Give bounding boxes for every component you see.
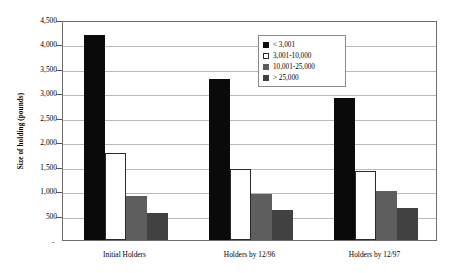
legend-item-label: 3,001-10,000 [273, 52, 311, 60]
bar [230, 169, 251, 240]
bars-layer [63, 22, 436, 240]
y-axis-tick-label: 3,500 [0, 65, 62, 73]
legend-swatch-icon [263, 64, 269, 70]
y-axis-tick-label: 2,500 [0, 114, 62, 122]
bar [126, 196, 147, 240]
bar [355, 171, 376, 240]
legend-item[interactable]: 10,001-25,000 [263, 61, 341, 72]
y-axis-tick-label: 2,000 [0, 139, 62, 147]
legend-item[interactable]: 3,001-10,000 [263, 50, 341, 61]
bar [272, 210, 293, 240]
zero-tick-marker: - [52, 238, 54, 247]
legend-swatch-icon [263, 75, 269, 81]
bar-chart: Size of holding (pounds) 4,5004,0003,500… [0, 0, 464, 273]
bar [105, 153, 126, 241]
y-axis-tick-label: 4,000 [0, 41, 62, 49]
bar [209, 79, 230, 240]
legend-swatch-icon [263, 42, 269, 48]
bar [397, 208, 418, 240]
y-axis-tick-label: 1,500 [0, 163, 62, 171]
legend-item[interactable]: < 3,001 [263, 39, 341, 50]
x-axis-category-label: Initial Holders [103, 250, 146, 259]
legend: < 3,0013,001-10,00010,001-25,000> 25,000 [258, 35, 346, 87]
bar [376, 191, 397, 240]
x-axis-category-label: Holders by 12/96 [224, 250, 275, 259]
bar-group [334, 22, 418, 240]
x-axis-category-label: Holders by 12/97 [349, 250, 400, 259]
bar [84, 35, 105, 240]
plot-area [62, 21, 437, 241]
legend-item-label: 10,001-25,000 [273, 63, 315, 71]
bar [334, 98, 355, 240]
y-axis-tick-label: 4,500 [0, 17, 62, 25]
y-axis-tick-label: 3,000 [0, 90, 62, 98]
bar [251, 194, 272, 240]
bar [147, 213, 168, 240]
legend-item-label: < 3,001 [273, 41, 295, 49]
legend-item[interactable]: > 25,000 [263, 72, 341, 83]
y-axis-tick-label: 500 [0, 212, 62, 220]
legend-swatch-icon [263, 53, 269, 59]
bar-group [84, 22, 168, 240]
legend-item-label: > 25,000 [273, 74, 299, 82]
y-axis-tick-label: 1,000 [0, 188, 62, 196]
